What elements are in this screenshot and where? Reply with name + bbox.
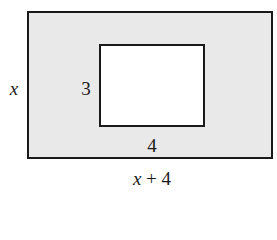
outer-width-rest: + 4	[141, 168, 171, 189]
inner-rectangle	[99, 44, 205, 127]
outer-width-label: x + 4	[133, 169, 171, 188]
outer-height-label: x	[10, 79, 18, 98]
inner-height-label: 3	[81, 79, 91, 98]
inner-width-label: 4	[147, 136, 157, 155]
